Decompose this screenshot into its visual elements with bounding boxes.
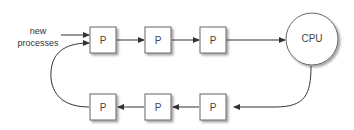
svg-text:CPU: CPU	[301, 33, 322, 44]
queue-box-top-3: P	[200, 27, 226, 53]
svg-text:P: P	[210, 35, 217, 46]
queue-box-top-2: P	[145, 27, 171, 53]
new-processes-label-line1: new	[30, 26, 47, 36]
svg-text:P: P	[155, 102, 162, 113]
cpu-return-arrow	[234, 66, 311, 107]
queue-box-top-1: P	[90, 27, 116, 53]
svg-text:P: P	[210, 102, 217, 113]
queue-box-bottom-3: P	[200, 94, 226, 120]
queue-box-bottom-1: P	[90, 94, 116, 120]
queue-box-bottom-2: P	[145, 94, 171, 120]
cpu-circle: CPU	[286, 13, 338, 65]
round-robin-queue-diagram: new processes P P P CPU P P P	[0, 0, 354, 130]
new-processes-label-line2: processes	[17, 38, 59, 48]
svg-text:P: P	[155, 35, 162, 46]
svg-text:P: P	[100, 102, 107, 113]
svg-text:P: P	[100, 35, 107, 46]
loop-back-arrow	[51, 43, 89, 107]
